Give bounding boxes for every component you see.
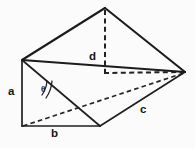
edge-left-to-bottommid-diagonal [22,60,100,126]
label-d: d [89,51,96,63]
label-c: c [140,104,146,116]
solid-edges [22,8,185,126]
edge-c-lower-right [100,72,185,126]
label-theta: θ [41,85,45,94]
hidden-edge-foot-to-right [104,72,184,73]
edge-apex-to-right [105,8,185,72]
geometry-figure: a b c d θ [0,0,195,148]
label-b: b [51,128,58,140]
label-a: a [8,86,14,98]
figure-canvas [0,0,195,148]
edge-left-to-right-ridge [22,60,185,72]
hidden-edges [23,10,184,126]
